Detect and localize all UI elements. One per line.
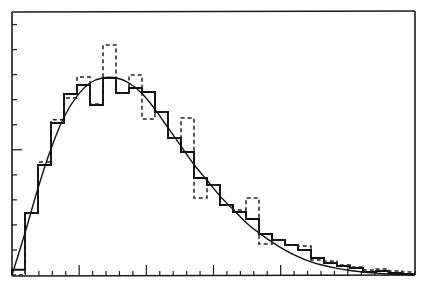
histogram-dashed-bin xyxy=(38,162,51,275)
plot-frame xyxy=(12,11,415,276)
histogram-dashed-bin xyxy=(285,245,298,275)
histogram-solid-bin xyxy=(25,213,38,275)
histogram-dashed-bin xyxy=(207,185,220,275)
histogram-solid-bin xyxy=(272,240,285,275)
histogram-solid-bin xyxy=(285,245,298,275)
histogram-solid-bin xyxy=(129,88,142,275)
histogram-dashed-outline xyxy=(12,45,415,275)
histogram-dashed-bin xyxy=(246,198,259,275)
histogram-dashed-bin xyxy=(181,118,194,275)
histogram-dashed-bin xyxy=(77,77,90,275)
histogram-solid-bin xyxy=(77,85,90,275)
histogram-solid-bin xyxy=(168,138,181,275)
histogram-dashed-bin xyxy=(90,104,103,275)
histogram-dashed-bin xyxy=(103,45,116,275)
histogram-dashed-bin xyxy=(155,112,168,275)
histogram-dashed-bin xyxy=(129,75,142,275)
histogram-dashed-bin xyxy=(142,119,155,275)
histogram-solid-bin xyxy=(90,105,103,275)
y-axis-ticks xyxy=(12,25,22,250)
histogram-dashed-bin xyxy=(25,213,38,275)
x-axis xyxy=(12,275,415,276)
fitted-curve xyxy=(12,77,415,275)
histogram-solid-bin xyxy=(155,112,168,275)
histogram-solid-outline xyxy=(12,78,415,275)
histogram-dashed-bin xyxy=(272,240,285,275)
histogram-solid-bin xyxy=(324,263,337,275)
histogram-dashed-bin xyxy=(116,93,129,275)
histogram-solid-bin xyxy=(116,93,129,275)
histogram-solid-bin xyxy=(194,178,207,275)
histogram-chart xyxy=(0,0,423,290)
histogram-dashed xyxy=(12,45,415,275)
histogram-solid-bin xyxy=(298,250,311,275)
frame-top xyxy=(12,11,415,12)
histogram-dashed-bin xyxy=(168,138,181,275)
histogram-dashed-bin xyxy=(64,98,77,275)
histogram-solid-bin xyxy=(64,94,77,275)
histogram-dashed-bin xyxy=(220,205,233,275)
histogram-dashed-bin xyxy=(194,198,207,275)
histogram-solid-bin xyxy=(51,123,64,275)
histogram-solid xyxy=(12,78,415,275)
histogram-solid-bin xyxy=(181,152,194,275)
histogram-dashed-bin xyxy=(259,244,272,275)
histogram-solid-bin xyxy=(103,78,116,275)
histogram-solid-bin xyxy=(207,185,220,275)
histogram-solid-bin xyxy=(220,205,233,275)
series-layer xyxy=(12,45,415,275)
